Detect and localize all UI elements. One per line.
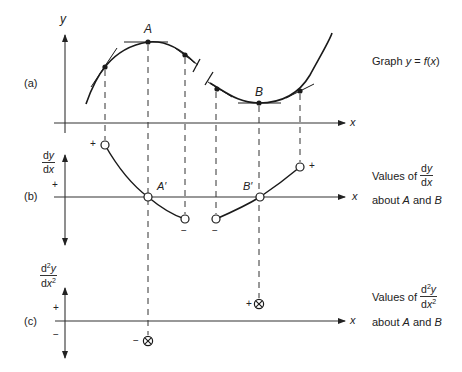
tangent-line [208,82,232,97]
x-axis-label-c: x [350,315,356,326]
minus-sign-axis-c: − [53,330,59,340]
panel-c [55,288,345,358]
derivative-curve-A [105,145,185,219]
curve-point [102,64,107,69]
point-B-prime [256,193,264,201]
caption-c: Values of d2y dx2 about A and B [372,283,442,328]
curve-point [297,88,302,93]
point-A-prime [144,193,152,201]
x-axis-label-a: x [350,117,356,128]
sign-minus-2: − [212,226,218,236]
point-B-label: B [255,86,263,98]
x-axis-label-b: x [352,191,358,202]
otimes-icon-B [254,299,263,308]
gradient-point [101,141,109,149]
curve-point [214,86,219,91]
sign-plus-left: + [90,139,96,149]
point-A-dot [145,39,150,44]
d2y-dx2-fraction: d2y dx2 [420,283,437,310]
plus-sign-axis-c: + [53,303,59,313]
plus-sign-axis-b: + [52,180,58,190]
sign-plus-B: + [246,299,252,309]
gradient-point [296,163,304,171]
panel-b [54,141,345,245]
panel-b-tag: (b) [24,191,37,202]
dy-dx-axis-label: dy dx [42,150,55,175]
point-A-prime-label: A′ [157,181,166,192]
y-axis-label: y [60,13,66,25]
sign-plus-right: + [309,161,315,171]
panel-c-tag: (c) [24,316,37,327]
caption-b: Values of dy dx about A and B [372,163,442,206]
gradient-point [181,215,189,223]
d2y-dx2-axis-label: d2y dx2 [40,262,57,289]
point-A-label: A [144,23,152,35]
sign-minus-1: − [181,226,187,236]
sign-minus-A: − [133,336,139,346]
point-B-dot [256,100,261,105]
caption-a: Graph y = f(x) [372,56,440,67]
gradient-point [212,215,220,223]
curve-minimum [210,33,332,103]
otimes-icon-A [143,336,152,345]
point-B-prime-label: B′ [243,181,252,192]
panel-a [54,33,345,133]
dy-dx-fraction: dy dx [420,163,433,188]
panel-a-tag: (a) [24,78,37,89]
curve-point [182,52,187,57]
